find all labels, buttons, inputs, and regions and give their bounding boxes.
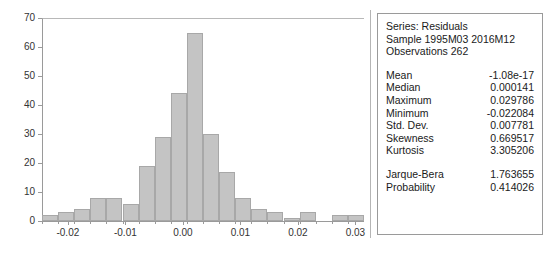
observations-line: Observations 262 [386,45,534,58]
statistic-label: Probability [386,181,435,194]
statistic-value: 3.305206 [490,144,534,157]
x-axis-tick-mark [125,221,126,225]
histogram-bar [74,209,90,221]
histogram-chart: 706050403020100 -0.02-0.010.000.010.020.… [0,0,370,253]
x-axis-tick-label: 0.03 [346,227,365,238]
sample-range-line: Sample 1995M03 2016M12 [386,33,534,46]
bin-boundary-tick [284,221,285,224]
y-axis-tick-label: 20 [24,157,35,168]
bin-boundary-tick [316,221,317,224]
statistic-row: Std. Dev.0.007781 [386,119,534,132]
y-axis-tick-label: 30 [24,128,35,139]
statistic-row: Minimum-0.022084 [386,107,534,120]
test-statistic-row: Jarque-Bera1.763655 [386,168,534,181]
bin-boundary-tick [219,221,220,224]
statistic-label: Skewness [386,132,434,145]
bin-boundary-tick [300,221,301,224]
histogram-bar [123,204,139,221]
bin-boundary-tick [171,221,172,224]
statistic-label: Std. Dev. [386,119,428,132]
y-axis-tick-label: 10 [24,186,35,197]
histogram-bar [42,215,58,221]
y-axis-tick-label: 70 [24,12,35,23]
bin-boundary-tick [203,221,204,224]
test-statistic-row: Probability0.414026 [386,181,534,194]
histogram-stats-output: 706050403020100 -0.02-0.010.000.010.020.… [0,0,550,253]
statistic-label: Jarque-Bera [386,168,444,181]
statistic-value: 0.669517 [490,132,534,145]
statistic-label: Median [386,81,420,94]
y-axis-tick-mark [38,134,42,135]
bin-boundary-tick [187,221,188,224]
descriptive-statistics-list: Mean-1.08e-17Median0.000141Maximum0.0297… [386,69,534,157]
bin-boundary-tick [267,221,268,224]
bin-boundary-tick [155,221,156,224]
x-axis-tick-mark [355,221,356,225]
bin-boundary-tick [74,221,75,224]
bin-boundary-tick [90,221,91,224]
bin-boundary-tick [106,221,107,224]
statistic-label: Maximum [386,94,432,107]
statistic-value: -1.08e-17 [489,69,534,82]
histogram-bar [187,33,203,222]
histogram-bar [348,215,364,221]
statistic-value: 0.000141 [490,81,534,94]
histogram-bar [267,212,283,221]
x-axis-tick-label: 0.00 [173,227,192,238]
statistic-label: Mean [386,69,412,82]
stats-panel-outer-edge [370,10,371,238]
histogram-bar [171,93,187,221]
stats-spacer-bottom [386,157,534,168]
statistic-value: 0.029786 [490,94,534,107]
histogram-bars [43,18,364,221]
statistic-row: Mean-1.08e-17 [386,69,534,82]
stats-spacer-top [386,58,534,69]
y-axis-tick-mark [38,76,42,77]
statistic-value: 0.414026 [490,181,534,194]
histogram-bar [300,212,316,221]
y-axis-tick-mark [38,105,42,106]
series-name-line: Series: Residuals [386,20,534,33]
x-axis-tick-label: -0.01 [114,227,137,238]
histogram-bar [58,212,74,221]
statistic-value: 0.007781 [490,119,534,132]
bin-boundary-tick [348,221,349,224]
histogram-bar [155,137,171,221]
x-axis-tick-label: -0.02 [56,227,79,238]
y-axis-tick-mark [38,18,42,19]
histogram-bar [203,134,219,221]
y-axis-tick-label: 40 [24,99,35,110]
histogram-bar [90,198,106,221]
statistic-row: Kurtosis3.305206 [386,144,534,157]
statistic-label: Kurtosis [386,144,424,157]
statistic-row: Skewness0.669517 [386,132,534,145]
bin-boundary-tick [42,221,43,224]
histogram-bar [251,209,267,221]
normality-test-list: Jarque-Bera1.763655Probability0.414026 [386,168,534,193]
statistics-box: Series: Residuals Sample 1995M03 2016M12… [377,13,543,235]
x-axis-tick-label: 0.02 [288,227,307,238]
bin-boundary-tick [123,221,124,224]
statistic-value: -0.022084 [487,107,534,120]
histogram-bar [284,218,300,221]
statistic-value: 1.763655 [490,168,534,181]
bin-boundary-tick [251,221,252,224]
y-axis-tick-label: 50 [24,70,35,81]
x-axis-tick-label: 0.01 [231,227,250,238]
y-axis-tick-mark [38,163,42,164]
bin-boundary-tick [235,221,236,224]
histogram-bar [219,172,235,221]
y-axis-tick-mark [38,47,42,48]
statistic-row: Median0.000141 [386,81,534,94]
bin-boundary-tick [139,221,140,224]
y-axis-tick-mark [38,192,42,193]
histogram-bar [332,215,348,221]
histogram-bar [106,198,122,221]
x-axis-tick-mark [240,221,241,225]
statistic-label: Minimum [386,107,429,120]
histogram-bar [139,166,155,221]
y-axis-tick-label: 0 [29,215,35,226]
y-axis-tick-label: 60 [24,41,35,52]
x-axis-tick-mark [68,221,69,225]
x-axis-tick-mark [183,221,184,225]
